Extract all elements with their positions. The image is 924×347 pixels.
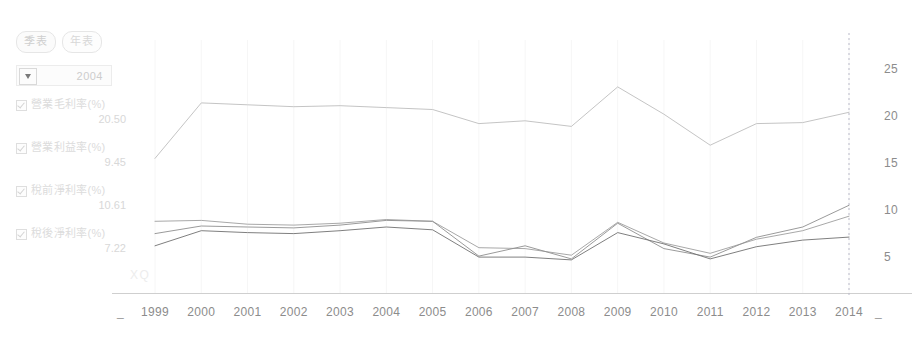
tab-annual[interactable]: 年表: [62, 31, 102, 53]
year-select-value: 2004: [77, 70, 103, 82]
legend-item-label: 稅後淨利率(%): [31, 227, 106, 239]
control-panel: 季表 年表 2004 營業毛利率(%)20.50營業利益率(%)9.45稅前淨利…: [0, 0, 132, 347]
x-axis-tick-2000: 2000: [179, 305, 223, 319]
watermark: XQ: [130, 268, 150, 282]
x-axis-tick-2004: 2004: [364, 305, 408, 319]
year-select-dropdown-button[interactable]: [19, 68, 37, 85]
series-line-2: [155, 205, 849, 259]
x-axis-tick-2002: 2002: [272, 305, 316, 319]
x-axis-tick-2009: 2009: [596, 305, 640, 319]
chart-area: 5101520251999200020012002200320042005200…: [0, 0, 924, 347]
y-axis-tick-25: 25: [884, 62, 898, 76]
y-axis-tick-10: 10: [884, 203, 898, 217]
legend-item-label: 稅前淨利率(%): [31, 184, 106, 196]
legend-item-label: 營業毛利率(%): [31, 98, 106, 110]
legend-item-header: 營業利益率(%): [16, 141, 132, 154]
x-axis-tick-2013: 2013: [781, 305, 825, 319]
x-axis-tick-2011: 2011: [688, 305, 732, 319]
x-axis-tick-2006: 2006: [457, 305, 501, 319]
x-axis-tick-2008: 2008: [549, 305, 593, 319]
series-line-0: [155, 87, 849, 158]
x-axis-tick-2007: 2007: [503, 305, 547, 319]
x-axis-tick-2005: 2005: [411, 305, 455, 319]
x-axis-edge-dash-right: _: [875, 305, 882, 319]
x-axis-tick-2001: 2001: [226, 305, 270, 319]
legend-item-0[interactable]: 營業毛利率(%)20.50: [16, 98, 132, 125]
x-axis-tick-2012: 2012: [734, 305, 778, 319]
legend-item-value: 9.45: [16, 156, 132, 168]
legend-item-label: 營業利益率(%): [31, 141, 106, 153]
legend-item-header: 營業毛利率(%): [16, 98, 132, 111]
legend-item-3[interactable]: 稅後淨利率(%)7.22: [16, 227, 132, 254]
y-axis-tick-15: 15: [884, 156, 898, 170]
x-axis-tick-2014: 2014: [827, 305, 871, 319]
x-axis-tick-2003: 2003: [318, 305, 362, 319]
y-axis-tick-5: 5: [884, 250, 891, 264]
checkbox-checked-icon[interactable]: [16, 143, 27, 154]
legend-item-value: 7.22: [16, 242, 132, 254]
legend-item-1[interactable]: 營業利益率(%)9.45: [16, 141, 132, 168]
legend-item-header: 稅後淨利率(%): [16, 227, 132, 240]
legend-item-value: 20.50: [16, 113, 132, 125]
checkbox-checked-icon[interactable]: [16, 100, 27, 111]
chart-svg: [0, 0, 924, 347]
period-tab-group[interactable]: 季表 年表: [16, 31, 102, 53]
series-legend: 營業毛利率(%)20.50營業利益率(%)9.45稅前淨利率(%)10.61稅後…: [16, 98, 132, 270]
tab-quarterly[interactable]: 季表: [16, 31, 56, 53]
legend-item-header: 稅前淨利率(%): [16, 184, 132, 197]
chevron-down-icon: [25, 74, 31, 79]
x-axis-tick-2010: 2010: [642, 305, 686, 319]
year-select[interactable]: 2004: [16, 65, 112, 86]
checkbox-checked-icon[interactable]: [16, 229, 27, 240]
checkbox-checked-icon[interactable]: [16, 186, 27, 197]
y-axis-tick-20: 20: [884, 109, 898, 123]
legend-item-2[interactable]: 稅前淨利率(%)10.61: [16, 184, 132, 211]
series-line-3: [155, 227, 849, 260]
x-axis-tick-1999: 1999: [133, 305, 177, 319]
legend-item-value: 10.61: [16, 199, 132, 211]
